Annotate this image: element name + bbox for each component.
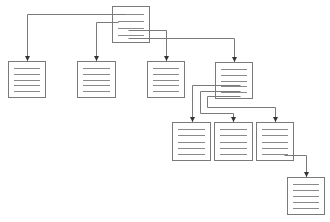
connector-root-c3 (129, 31, 167, 62)
connector-c4-g3 (208, 97, 276, 123)
arrowhead-icon (94, 56, 99, 61)
connector-g3-gg1 (285, 156, 307, 178)
arrowhead-icon (232, 57, 237, 62)
connector-layer (0, 0, 330, 222)
arrowhead-icon (25, 56, 30, 61)
arrowhead-icon (190, 117, 195, 122)
arrowhead-icon (231, 117, 236, 122)
connector-root-c4 (129, 39, 235, 63)
connector-root-c2 (97, 23, 119, 62)
connector-root-c1 (28, 15, 126, 62)
tree-diagram (0, 0, 330, 222)
arrowhead-icon (164, 56, 169, 61)
arrowhead-icon (304, 172, 309, 177)
arrowhead-icon (273, 117, 278, 122)
